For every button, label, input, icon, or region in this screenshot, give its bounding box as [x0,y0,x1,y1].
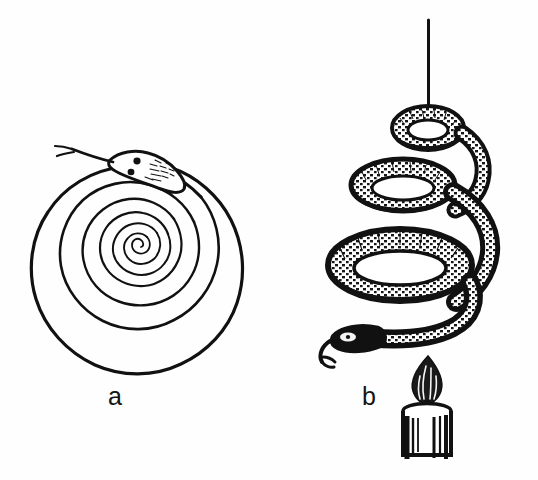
candle-flame [412,356,441,404]
tongue-fork-upper [55,146,72,149]
snake-head-outline [331,325,386,352]
snake-eye-lower [128,169,135,175]
panel-a-drawing [0,140,270,380]
snake-pupil [346,335,350,339]
snake-coil-1 [392,106,464,151]
candle-body [403,411,451,455]
tongue-shaft [72,149,113,162]
snake-coil-3 [328,229,472,303]
snake-head [331,325,386,352]
paper-spiral-snake [31,167,242,374]
tongue-fork-lower [322,362,334,367]
spiral-turn-5 [113,223,170,275]
panel-label-b: b [362,384,376,409]
hanging-coiled-snake [320,106,490,367]
snake-eye-upper [133,158,140,165]
coil-3-inner-hole [354,251,446,285]
spiral-turn-6 [124,233,160,264]
panel-a-spiral-snake [0,140,270,380]
spiral-center-curl [132,237,150,254]
coil-2-inner-hole [372,176,434,200]
tongue-fork-lower [57,152,74,156]
snake-head [109,151,185,192]
tongue-fork-upper [323,357,335,362]
figure-root: a b [0,0,538,480]
lit-candle [403,356,451,459]
snake-head-outline [109,151,185,192]
panel-b-hanging-snake [300,0,538,470]
panel-label-a: a [108,384,122,409]
forked-tongue [55,146,113,162]
panel-b-drawing [300,0,538,470]
coil-1-inner-hole [408,120,448,140]
snake-coil-2 [351,159,455,213]
